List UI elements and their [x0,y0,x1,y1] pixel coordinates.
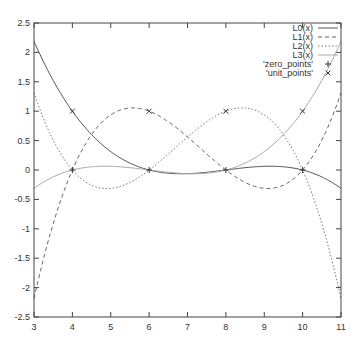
unit-point-marker [70,109,75,114]
x-tick-label: 8 [223,322,228,332]
x-tick-label: 4 [70,322,75,332]
x-tick-label: 9 [262,322,267,332]
x-tick-label: 5 [108,322,113,332]
x-tick-label: 3 [31,322,36,332]
y-tick-label: 2 [25,47,30,57]
y-tick-label: -0.5 [14,194,30,204]
legend-label: 'unit_points' [266,68,313,78]
zero-point-marker [69,167,75,173]
y-tick-label: 2.5 [17,18,30,28]
y-tick-label: 1 [25,106,30,116]
y-tick-label: -1 [22,224,30,234]
x-tick-label: 6 [147,322,152,332]
x-tick-label: 11 [336,322,345,332]
curve-l1x [34,93,341,299]
legend: L0(x)L1(x)L2(x)L3(x)'zero_points''unit_p… [263,23,338,78]
unit-point-marker [300,109,305,114]
curve-l2x [34,93,341,299]
y-tick-label: 1.5 [17,77,30,87]
y-tick-label: 0.5 [17,136,30,146]
y-tick-label: -2.5 [14,312,30,322]
plot-markers [69,109,305,173]
legend-marker-sample [325,61,331,67]
y-tick-label: 0 [25,165,30,175]
y-tick-label: -2 [22,283,30,293]
unit-point-marker [223,109,228,114]
lagrange-basis-chart: 345678910112.521.510.50-0.5-1-1.5-2-2.5 … [0,0,361,349]
zero-point-marker [146,167,152,173]
y-tick-label: -1.5 [14,253,30,263]
x-tick-label: 10 [298,322,308,332]
plot-curves [34,41,341,298]
unit-point-marker [147,109,152,114]
x-tick-label: 7 [185,322,190,332]
